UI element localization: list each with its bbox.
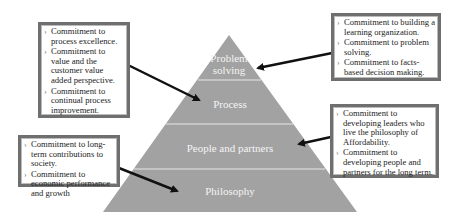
tier-process: Process bbox=[190, 98, 270, 110]
list-item: Commitment to facts-based decision makin… bbox=[337, 58, 435, 77]
list-item: Commitment to developing people and part… bbox=[336, 148, 433, 177]
tier-people-and-partners: People and partners bbox=[170, 142, 290, 154]
list-item: Commitment to building a learning organi… bbox=[337, 18, 435, 37]
tier-label-line: Problem bbox=[200, 52, 258, 64]
list-item: Commitment to long-term contributions to… bbox=[24, 140, 114, 169]
list-item: Commitment to value and the customer val… bbox=[44, 47, 124, 85]
arrow-process bbox=[128, 65, 199, 100]
list-item: Commitment to process excellence. bbox=[44, 27, 124, 46]
problem-solving-box: Commitment to building a learning organi… bbox=[331, 13, 441, 81]
philosophy-box: Commitment to long-term contributions to… bbox=[18, 135, 120, 187]
process-box: Commitment to process excellence. Commit… bbox=[38, 22, 130, 118]
tier-label-line: solving bbox=[200, 64, 258, 76]
list-item: Commitment to problem solving. bbox=[337, 38, 435, 57]
tier-philosophy: Philosophy bbox=[190, 185, 270, 197]
people-and-partners-box: Commitment to developing leaders who liv… bbox=[330, 104, 439, 178]
list-item: Commitment to developing leaders who liv… bbox=[336, 109, 433, 147]
list-item: Commitment to continual process improvem… bbox=[44, 87, 124, 116]
tier-problem-solving: Problem solving bbox=[200, 52, 258, 76]
list-item: Commitment to economic performance and g… bbox=[24, 170, 114, 199]
